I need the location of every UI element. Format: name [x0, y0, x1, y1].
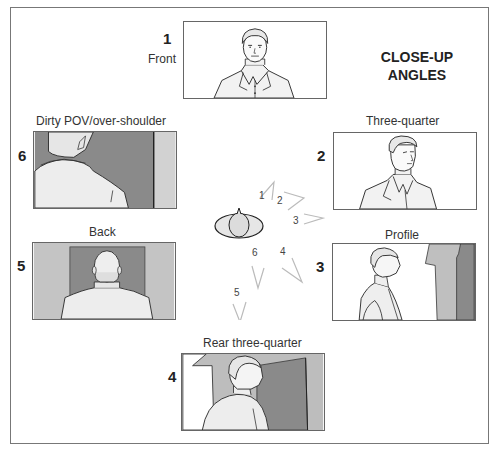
panel-1-label: Front	[148, 52, 176, 66]
camera-position-3: 3	[293, 215, 299, 226]
back-view-figure-icon	[33, 243, 175, 319]
panel-front	[183, 21, 327, 99]
panel-3-label: Profile	[385, 228, 419, 242]
camera-position-diagram: 1 2 3 4 6 5	[200, 150, 350, 320]
panel-rear-three-quarter	[181, 353, 325, 431]
rear-three-quarter-view-figure-icon	[182, 354, 324, 430]
over-shoulder-view-figure-icon	[34, 132, 176, 208]
camera-position-1: 1	[259, 190, 265, 201]
camera-position-2: 2	[277, 195, 283, 206]
camera-position-6: 6	[252, 247, 258, 258]
panel-5-number: 5	[17, 257, 25, 274]
title-line-1: CLOSE-UP	[362, 48, 472, 66]
panel-4-label: Rear three-quarter	[203, 336, 302, 350]
profile-view-figure-icon	[333, 244, 475, 320]
panel-2-label: Three-quarter	[366, 114, 439, 128]
front-view-figure-icon	[184, 22, 326, 98]
page-title: CLOSE-UP ANGLES	[362, 48, 472, 84]
title-line-2: ANGLES	[362, 66, 472, 84]
panel-3-number: 3	[316, 258, 324, 275]
panel-6-label: Dirty POV/over-shoulder	[36, 114, 166, 128]
panel-dirty-pov	[33, 131, 177, 209]
panel-three-quarter	[333, 132, 477, 210]
top-down-head-icon	[215, 208, 263, 238]
panel-1-number: 1	[163, 30, 171, 47]
panel-profile	[332, 243, 476, 321]
three-quarter-view-figure-icon	[334, 133, 476, 209]
camera-position-5: 5	[234, 287, 240, 298]
panel-6-number: 6	[18, 147, 26, 164]
panel-4-number: 4	[168, 368, 176, 385]
camera-position-4: 4	[280, 246, 286, 257]
camera-positions-graphic	[200, 150, 350, 320]
panel-5-label: Back	[89, 225, 116, 239]
panel-back	[32, 242, 176, 320]
